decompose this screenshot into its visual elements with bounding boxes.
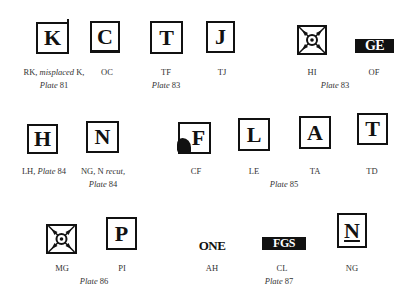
label-ng-recut: NG, N recut, [81,166,125,176]
letter-box-c: C [90,21,120,53]
label-cl: CL [277,263,288,273]
label-of: OF [369,67,380,77]
letter-p: P [115,221,128,247]
label-tj: TJ [218,67,227,77]
letter-l: L [247,122,262,148]
letter-c: C [97,24,113,50]
letter-k: K [44,25,61,51]
sunburst-ornament-mg [46,224,77,254]
letter-box-j: J [206,21,235,53]
letter-t2: T [365,116,380,142]
letter-box-n: N [86,121,119,153]
plate-83-b: Plate 83 [321,80,350,90]
plate-84: Plate 84 [89,179,118,189]
block-fgs: FGS [262,237,306,250]
letter-f: F [192,125,205,151]
letter-n2: N [344,218,360,244]
label-mg: MG [55,263,69,273]
letter-j: J [215,24,226,50]
letter-n: N [95,124,111,150]
sunburst-icon [299,27,325,53]
sunburst-icon [48,226,75,252]
label-le: LE [249,166,259,176]
letter-h: H [34,126,51,152]
letter-box-f: F [178,122,211,154]
letter-box-k: K [36,22,69,54]
plate-85: Plate 85 [270,179,299,189]
label-td: TD [366,166,377,176]
letter-box-a: A [299,116,331,149]
letter-box-h: H [27,124,58,154]
plate-87: Plate 87 [265,276,294,286]
plate-81: Plate 81 [40,80,69,90]
sunburst-ornament-hi [297,25,327,55]
label-pi: PI [118,263,126,273]
label-cf: CF [191,166,201,176]
label-rk: RK, misplaced K, [24,67,85,77]
ink-blot [177,138,191,154]
letter-a: A [307,120,323,146]
plate-86: Plate 86 [80,276,109,286]
letter-box-t: T [150,21,183,54]
label-ah: AH [206,263,218,273]
label-ta: TA [310,166,321,176]
label-ng: NG [346,263,358,273]
label-tf: TF [161,67,171,77]
figure-page: K RK, misplaced K, Plate 81 C OC T TF Pl… [0,0,412,296]
label-hi: HI [308,67,317,77]
block-ge: GE [355,39,394,53]
label-oc: OC [101,67,113,77]
letter-box-n2: N [337,213,367,248]
plate-83-a: Plate 83 [152,80,181,90]
label-lh: LH, Plate 84 [22,166,66,176]
block-one: ONE [192,239,232,252]
letter-box-l: L [238,118,270,151]
letter-t: T [159,25,174,51]
letter-box-p: P [106,217,137,250]
letter-box-t2: T [357,113,388,145]
